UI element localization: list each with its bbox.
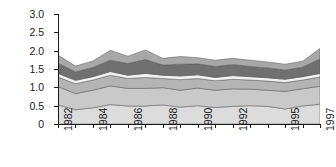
x-tick-label: 1997 <box>324 108 336 131</box>
x-tick-label: 1982 <box>62 108 74 131</box>
x-tick-label: 1984 <box>97 108 109 131</box>
x-tick-label: 1986 <box>132 108 144 131</box>
x-tick-label: 1990 <box>202 108 214 131</box>
x-tick-label: 1995 <box>289 108 301 131</box>
x-tick-label: 1992 <box>237 108 249 131</box>
chart-container: Summed regional NDVI 3.02.52.01.51.00.50… <box>0 0 336 167</box>
x-axis-tick-labels: 19821984198619881990199219951997 <box>0 0 336 167</box>
x-tick-label: 1988 <box>167 108 179 131</box>
